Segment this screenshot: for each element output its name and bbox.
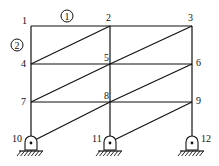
node-label-3: 3 — [188, 12, 193, 23]
frame-diagram: 12345678910111212 — [0, 0, 219, 166]
node-label-9: 9 — [196, 95, 201, 106]
svg-text:1: 1 — [65, 11, 70, 22]
node-label-4: 4 — [21, 58, 26, 69]
node-label-5: 5 — [104, 52, 109, 63]
node-label-6: 6 — [196, 57, 201, 68]
node-label-7: 7 — [21, 96, 26, 107]
node-label-12: 12 — [201, 133, 211, 144]
node-label-8: 8 — [104, 90, 109, 101]
member-8-6 — [110, 64, 192, 102]
svg-text:2: 2 — [15, 40, 20, 51]
node-label-1: 1 — [22, 15, 27, 26]
member-7-5 — [31, 64, 110, 102]
member-5-3 — [110, 26, 192, 64]
element-label-2: 2 — [11, 39, 23, 51]
node-label-10: 10 — [12, 133, 22, 144]
node-label-2: 2 — [106, 12, 111, 23]
element-label-1: 1 — [61, 10, 73, 22]
node-label-11: 11 — [92, 133, 102, 144]
member-11-9 — [110, 102, 192, 142]
member-4-2 — [31, 26, 110, 64]
